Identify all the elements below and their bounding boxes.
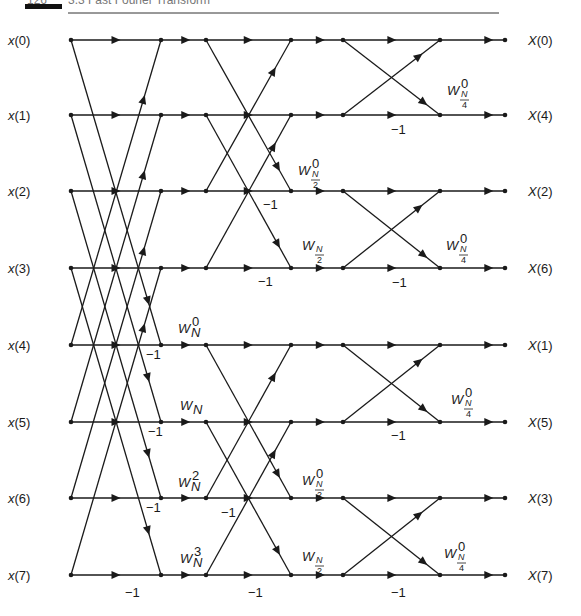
node-dot [69,113,74,118]
node-dot [503,113,508,118]
minus-one-label: −1 [392,275,407,290]
svg-text:2: 2 [313,180,318,190]
arrowhead-icon [181,111,190,119]
input-label: x(0) [7,33,30,48]
arrowhead-icon [484,571,493,579]
svg-text:W: W [178,321,192,336]
svg-text:2: 2 [317,566,322,576]
fft-flow-graph: x(0)x(1)x(2)x(3)x(4)x(5)x(6)x(7)X(0)X(4)… [0,0,581,616]
svg-text:2: 2 [192,468,199,483]
node-dot [438,189,443,194]
twiddle-factor-label: WN2 [302,238,324,265]
arrowhead-icon [418,556,428,565]
arrowhead-icon [112,494,121,502]
node-dot [503,189,508,194]
node-dot [341,573,346,578]
arrowhead-icon [387,264,396,272]
node-dot [438,420,443,425]
svg-text:W: W [444,546,458,561]
node-dot [438,343,443,348]
svg-text:W: W [302,473,316,488]
node-dot [204,113,209,118]
node-dot [204,573,209,578]
twiddle-factor-label: WN40 [444,539,466,573]
arrowhead-icon [138,95,146,105]
svg-text:0: 0 [316,466,323,481]
node-dot [503,266,508,271]
node-dot [438,266,443,271]
svg-text:0: 0 [458,539,465,554]
arrowhead-icon [484,111,493,119]
node-dot [69,266,74,271]
svg-text:4: 4 [459,563,464,573]
node-dot [159,266,164,271]
arrowhead-icon [112,571,121,579]
svg-text:0: 0 [460,231,467,246]
input-label: x(3) [7,261,30,276]
header-bar [25,4,62,9]
arrowhead-icon [143,525,151,535]
arrowhead-icon [387,571,396,579]
node-dot [204,343,209,348]
svg-text:4: 4 [461,255,466,265]
node-dot [289,38,294,43]
twiddle-factor-label: WN0 [178,314,201,340]
node-dot [438,496,443,501]
node-dot [503,420,508,425]
input-label: x(2) [7,184,30,199]
arrowhead-icon [413,512,423,521]
arrowhead-icon [387,341,396,349]
minus-one-label: −1 [148,424,163,439]
node-dot [341,496,346,501]
arrowhead-icon [387,187,396,195]
input-label: x(1) [7,108,30,123]
arrowhead-icon [316,111,325,119]
arrowhead-icon [181,341,190,349]
twiddle-factor-label: WN40 [446,231,468,265]
twiddle-factor-label: WN20 [298,156,320,190]
arrowhead-icon [181,187,190,195]
node-dot [341,113,346,118]
input-label: x(6) [7,491,30,506]
minus-one-label: −1 [391,428,406,443]
arrowhead-icon [484,341,493,349]
arrowhead-icon [181,494,190,502]
svg-text:3: 3 [194,544,201,559]
node-dot [69,573,74,578]
svg-text:4: 4 [466,409,471,419]
svg-text:W: W [447,83,461,98]
svg-text:0: 0 [465,385,472,400]
arrowhead-icon [316,418,325,426]
node-dot [341,343,346,348]
node-dot [289,189,294,194]
minus-one-label: −1 [248,585,263,600]
twiddle-factor-label: WN2 [178,468,201,494]
node-dot [69,189,74,194]
svg-text:0: 0 [312,156,319,171]
input-label: x(4) [7,338,30,353]
node-dot [204,38,209,43]
arrowhead-icon [484,494,493,502]
twiddle-factor-label: WN3 [180,544,203,570]
svg-text:W: W [302,238,316,253]
arrowhead-icon [387,111,396,119]
output-label: X(4) [527,108,553,123]
arrowhead-icon [316,264,325,272]
arrowhead-icon [181,36,190,44]
svg-text:0: 0 [192,314,199,329]
twiddle-factor-label: WN40 [447,76,469,110]
arrowhead-icon [112,36,121,44]
arrowhead-icon [244,341,253,349]
arrowhead-icon [413,205,423,214]
arrowhead-icon [138,323,146,333]
arrowhead-icon [112,111,121,119]
arrowhead-icon [181,571,190,579]
svg-text:N: N [316,244,323,254]
node-dot [438,573,443,578]
minus-one-label: −1 [125,585,140,600]
arrowhead-icon [143,296,151,306]
twiddle-factor-label: WN2 [302,549,324,576]
arrowhead-icon [244,264,253,272]
output-label: X(0) [527,33,553,48]
svg-text:2: 2 [317,255,322,265]
